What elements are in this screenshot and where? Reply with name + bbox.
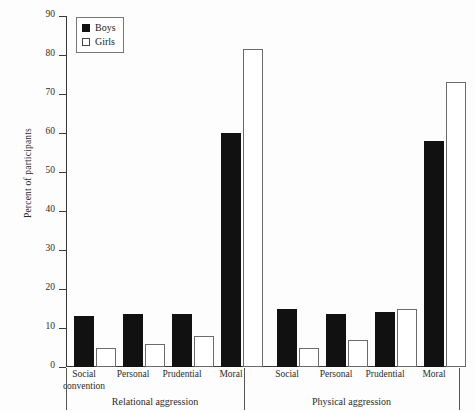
- bar-girls[interactable]: [194, 336, 214, 367]
- y-axis-title: Percent of participants: [23, 93, 33, 253]
- legend-item-girls[interactable]: Girls: [82, 35, 116, 49]
- y-tick-40: 40: [59, 211, 66, 212]
- category-line-1: Prudential: [365, 369, 404, 379]
- y-tick-10: 10: [59, 328, 66, 329]
- bar-girls[interactable]: [145, 344, 165, 367]
- y-tick-label-10: 10: [46, 321, 56, 331]
- category-axis: Social convention Personal Prudential Mo…: [66, 368, 460, 412]
- y-tick-label-20: 20: [46, 282, 56, 292]
- legend-item-boys[interactable]: Boys: [82, 21, 116, 35]
- bar-boys[interactable]: [74, 316, 94, 367]
- y-tick-30: 30: [59, 250, 66, 251]
- bar-boys[interactable]: [277, 309, 297, 368]
- y-tick-label-60: 60: [46, 126, 56, 136]
- group-separator-right: [459, 368, 460, 410]
- category-line-1: Personal: [320, 369, 353, 379]
- y-tick-label-80: 80: [46, 48, 56, 58]
- category-line-1: Moral: [219, 369, 242, 379]
- category-line-1: Prudential: [162, 369, 201, 379]
- y-tick-label-90: 90: [46, 9, 56, 19]
- bar-chart-figure: Percent of participants 90 80 70 60 50 4…: [0, 0, 475, 412]
- y-tick-80: 80: [59, 55, 66, 56]
- y-tick-label-70: 70: [46, 87, 56, 97]
- category-line-1: Moral: [422, 369, 445, 379]
- y-tick-label-40: 40: [46, 204, 56, 214]
- category-label-physical-moral: Moral: [402, 368, 466, 380]
- bar-girls[interactable]: [446, 82, 466, 367]
- bar-girls[interactable]: [348, 340, 368, 367]
- filled-square-icon: [82, 24, 90, 32]
- y-tick-60: 60: [59, 133, 66, 134]
- bar-boys[interactable]: [326, 314, 346, 367]
- legend-label-girls: Girls: [95, 35, 115, 49]
- hollow-square-icon: [82, 38, 90, 46]
- y-axis-line: [66, 16, 67, 367]
- bar-girls[interactable]: [299, 348, 319, 367]
- y-tick-70: 70: [59, 94, 66, 95]
- bar-boys[interactable]: [172, 314, 192, 367]
- bar-girls[interactable]: [243, 49, 263, 367]
- bar-boys[interactable]: [424, 141, 444, 367]
- y-tick-label-30: 30: [46, 243, 56, 253]
- bar-boys[interactable]: [221, 133, 241, 367]
- y-tick-50: 50: [59, 172, 66, 173]
- category-line-1: Personal: [117, 369, 150, 379]
- group-label-relational: Relational aggression: [66, 396, 244, 407]
- bar-boys[interactable]: [375, 312, 395, 367]
- y-tick-90: 90: [59, 16, 66, 17]
- bar-girls[interactable]: [397, 309, 417, 368]
- category-line-1: Social: [275, 369, 299, 379]
- category-line-1: Social: [72, 369, 96, 379]
- y-tick-label-50: 50: [46, 165, 56, 175]
- bar-girls[interactable]: [96, 348, 116, 367]
- bar-boys[interactable]: [123, 314, 143, 367]
- chart-legend: Boys Girls: [76, 17, 124, 53]
- category-label-relational-moral: Moral: [199, 368, 263, 380]
- y-tick-20: 20: [59, 289, 66, 290]
- category-line-2: convention: [52, 380, 116, 392]
- plot-area: 90 80 70 60 50 40 30 20 10 0: [66, 16, 460, 367]
- legend-label-boys: Boys: [95, 21, 116, 35]
- group-label-physical: Physical aggression: [244, 396, 459, 407]
